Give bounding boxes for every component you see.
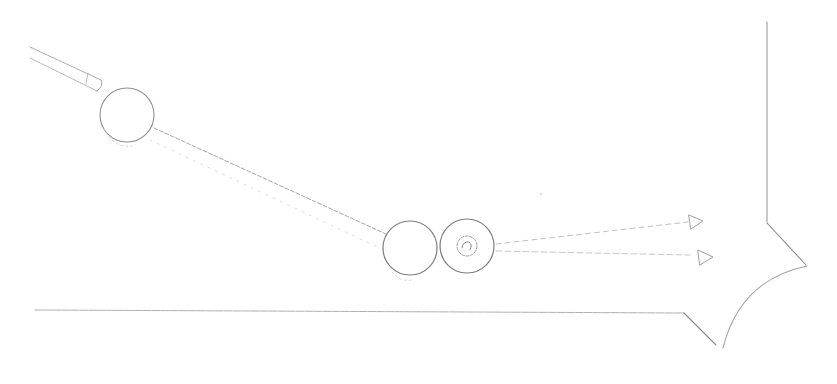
cue-stick: [30, 47, 102, 91]
diagram-canvas: billiard-collision-sketch: [0, 0, 837, 384]
diagram-svg: [0, 0, 837, 384]
object-ball-2: [440, 219, 494, 273]
cue-ball: [100, 88, 154, 146]
object-ball-1: [383, 221, 437, 280]
table-rail: [35, 22, 807, 348]
trajectory-arrow-lower: [496, 250, 713, 265]
trajectory-arrow-upper: [496, 215, 703, 244]
speck-mark: [540, 193, 542, 195]
cue-ball-trajectory: [150, 128, 386, 250]
